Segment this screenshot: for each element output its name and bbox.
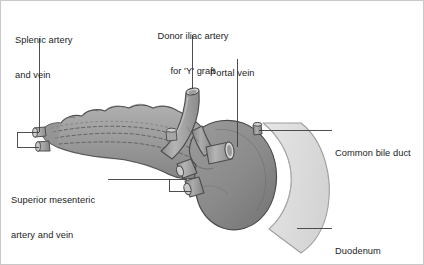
label-superior-mesenteric-artery-and-vein: Superior mesenteric artery and vein	[11, 172, 95, 265]
accessory-vessel-stump	[166, 128, 177, 141]
label-common-bile-duct: Common bile duct	[335, 125, 411, 183]
label-duodenum-line1: Duodenum	[335, 246, 381, 258]
label-portal-vein: Portal vein	[210, 45, 254, 103]
label-splenic-line1: Splenic artery	[15, 35, 73, 47]
label-superior-mesenteric-line2: artery and vein	[11, 230, 95, 242]
label-superior-mesenteric-line1: Superior mesenteric	[11, 195, 95, 207]
label-common-bile-duct-line1: Common bile duct	[335, 148, 411, 160]
label-splenic-line2: and vein	[15, 70, 73, 82]
common-bile-duct-stump	[253, 122, 262, 135]
label-duodenum: Duodenum	[335, 223, 381, 265]
label-portal-vein-line1: Portal vein	[210, 68, 254, 80]
figure-panel: Splenic artery and vein Donor iliac arte…	[0, 0, 424, 265]
label-donor-iliac-line1: Donor iliac artery	[103, 31, 283, 43]
splenic-vein-stump	[36, 141, 50, 151]
label-splenic-artery-and-vein: Splenic artery and vein	[15, 12, 73, 105]
label-donor-iliac-artery-y-graft: Donor iliac artery for 'Y' graft	[103, 8, 283, 101]
label-donor-iliac-line2: for 'Y' graft	[103, 66, 283, 78]
